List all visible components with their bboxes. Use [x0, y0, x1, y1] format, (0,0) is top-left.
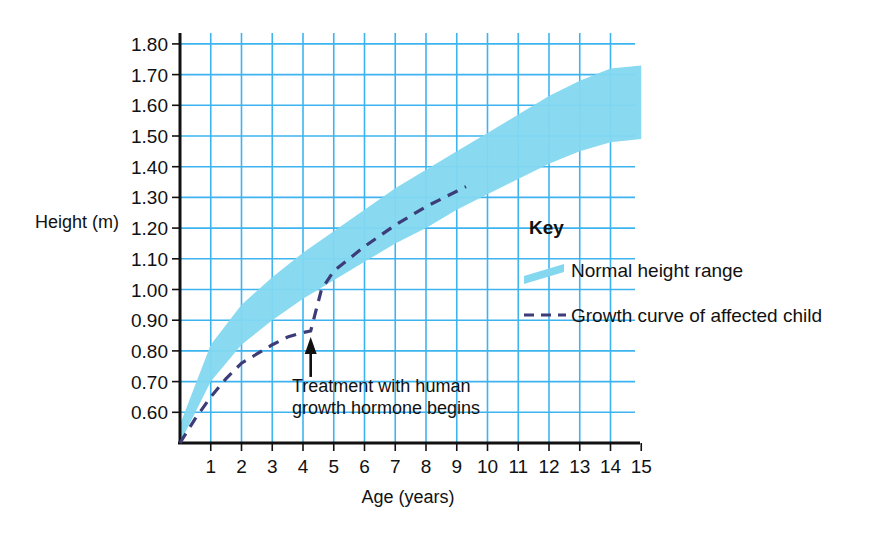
y-tick-label: 1.40: [131, 157, 168, 178]
x-tick-label: 15: [631, 456, 652, 477]
y-tick-label: 1.70: [131, 65, 168, 86]
x-tick-label: 10: [477, 456, 498, 477]
x-tick-label: 1: [205, 456, 216, 477]
y-axis-title: Height (m): [35, 212, 119, 232]
treatment-annotation-line2: growth hormone begins: [292, 398, 480, 418]
x-tick-label: 7: [390, 456, 401, 477]
x-tick-label: 5: [328, 456, 339, 477]
legend-label-normal-height-range: Normal height range: [571, 260, 743, 281]
y-tick-label: 1.50: [131, 126, 168, 147]
y-tick-label: 1.60: [131, 95, 168, 116]
x-tick-label: 12: [538, 456, 559, 477]
x-tick-label: 14: [600, 456, 622, 477]
x-tick-label: 9: [451, 456, 462, 477]
x-axis-title: Age (years): [361, 487, 454, 507]
y-tick-label: 0.80: [131, 341, 168, 362]
x-tick-label: 11: [508, 456, 528, 477]
chart-canvas: 0.600.700.800.901.001.101.201.301.401.50…: [0, 0, 885, 533]
y-tick-label: 1.10: [131, 249, 168, 270]
treatment-annotation-line1: Treatment with human: [292, 376, 470, 396]
x-tick-label: 6: [359, 456, 370, 477]
legend-label-growth-curve: Growth curve of affected child: [571, 305, 822, 326]
y-tick-label: 1.80: [131, 34, 168, 55]
x-tick-label: 4: [298, 456, 309, 477]
x-tick-label: 3: [267, 456, 278, 477]
x-tick-label: 13: [569, 456, 590, 477]
x-axis-tick-labels: 123456789101112131415: [205, 456, 651, 477]
y-tick-label: 0.90: [131, 310, 168, 331]
legend-title: Key: [529, 217, 564, 238]
x-tick-label: 2: [236, 456, 247, 477]
y-tick-label: 1.30: [131, 187, 168, 208]
y-tick-label: 1.20: [131, 218, 168, 239]
growth-chart-figure: 0.600.700.800.901.001.101.201.301.401.50…: [0, 0, 885, 533]
y-tick-label: 0.60: [131, 402, 168, 423]
x-tick-label: 8: [421, 456, 432, 477]
y-tick-label: 1.00: [131, 280, 168, 301]
y-tick-label: 0.70: [131, 372, 168, 393]
